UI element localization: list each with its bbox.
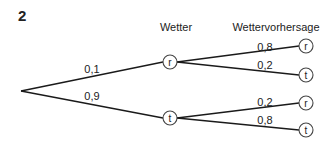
tree-edge bbox=[177, 46, 299, 62]
exercise-number: 2 bbox=[18, 7, 26, 24]
probability-label: 0,2 bbox=[257, 59, 272, 71]
probability-label: 0,2 bbox=[257, 96, 272, 108]
node-label: t bbox=[305, 70, 308, 81]
probability-tree-diagram: 2 Wetter Wettervorhersage 0,10,90,80,20,… bbox=[0, 0, 331, 144]
tree-node-r: r bbox=[163, 55, 177, 69]
probability-label: 0,9 bbox=[84, 90, 99, 102]
node-label: t bbox=[169, 113, 172, 124]
node-label: t bbox=[305, 125, 308, 136]
tree-edge bbox=[177, 118, 299, 130]
tree-node-t: t bbox=[163, 111, 177, 125]
tree-node-r: r bbox=[299, 96, 313, 110]
tree-node-t: t bbox=[299, 68, 313, 82]
tree-node-t: t bbox=[299, 123, 313, 137]
tree-edge bbox=[177, 62, 299, 75]
header-wettervorhersage: Wettervorhersage bbox=[232, 21, 319, 33]
probability-label: 0,1 bbox=[84, 63, 99, 75]
header-wetter: Wetter bbox=[160, 21, 193, 33]
tree-edge bbox=[177, 103, 299, 118]
probability-label: 0,8 bbox=[257, 114, 272, 126]
probability-label: 0,8 bbox=[257, 41, 272, 53]
tree-node-r: r bbox=[299, 39, 313, 53]
